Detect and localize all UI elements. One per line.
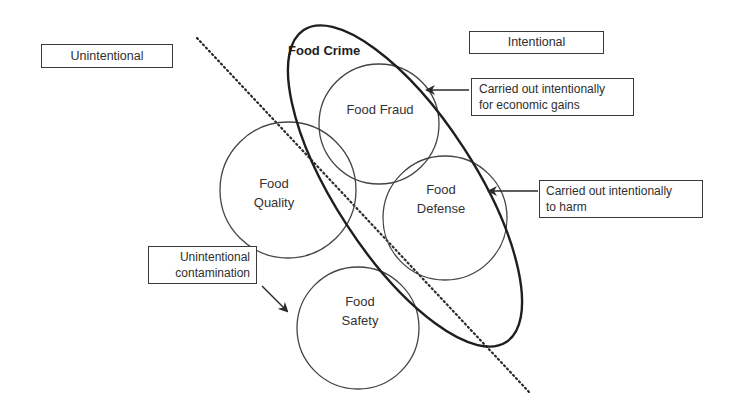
food-defense-circle (383, 156, 507, 280)
safety-callout-arrow (262, 286, 287, 311)
fraud-callout-box: Carried out intentionally for economic g… (471, 78, 634, 116)
food-crime-title: Food Crime (288, 43, 360, 59)
food-fraud-label: Food Fraud (340, 102, 420, 118)
food-safety-label: Food Safety (325, 294, 395, 329)
intentional-label: Intentional (508, 35, 566, 49)
food-defense-label: Food Defense (404, 182, 478, 217)
food-quality-label: Food Quality (244, 176, 304, 211)
food-fraud-circle (319, 64, 439, 184)
safety-callout-box: Unintentional contamination (148, 246, 257, 284)
unintentional-label-box: Unintentional (41, 44, 173, 68)
intentional-label-box: Intentional (469, 31, 604, 54)
unintentional-label: Unintentional (71, 49, 144, 63)
defense-callout-box: Carried out intentionally to harm (539, 180, 703, 218)
